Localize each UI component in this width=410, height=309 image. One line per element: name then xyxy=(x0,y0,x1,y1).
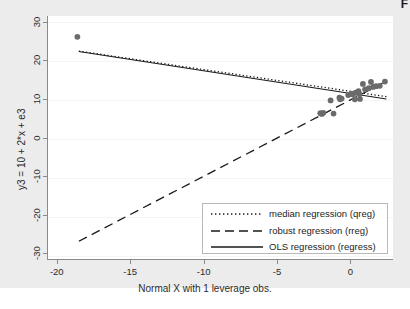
scatter-point xyxy=(382,79,388,85)
scatter-point xyxy=(328,98,334,104)
chart-legend: median regression (qreg) robust regressi… xyxy=(202,203,388,254)
regression-line-solid xyxy=(79,51,387,98)
scatter-point xyxy=(352,96,358,102)
legend-entry-qreg: median regression (qreg) xyxy=(203,205,387,222)
regression-line-dotted xyxy=(79,51,387,97)
y-axis-tick xyxy=(43,253,47,254)
y-tick-label: -30 xyxy=(31,241,42,265)
scatter-point xyxy=(357,96,363,102)
x-axis-tick xyxy=(350,260,351,264)
legend-label: median regression (qreg) xyxy=(269,208,375,219)
x-axis-tick xyxy=(57,260,58,264)
x-axis-tick xyxy=(130,260,131,264)
y-axis-spine xyxy=(47,16,48,260)
scatter-point xyxy=(331,111,337,117)
y-axis-tick xyxy=(43,176,47,177)
x-axis-tick xyxy=(277,260,278,264)
legend-entry-regress: OLS regression (regress) xyxy=(203,238,387,255)
x-tick-label: -5 xyxy=(262,266,292,277)
scatter-point xyxy=(360,81,366,87)
y-axis-tick xyxy=(43,22,47,23)
y-tick-label: 0 xyxy=(31,126,42,150)
x-tick-label: -20 xyxy=(42,266,72,277)
y-axis-tick xyxy=(43,215,47,216)
scatter-point xyxy=(356,91,362,97)
legend-label: OLS regression (regress) xyxy=(269,241,376,252)
dashed-line-key xyxy=(209,224,265,238)
x-axis-title: Normal X with 1 leverage obs. xyxy=(0,283,410,294)
scatter-point xyxy=(74,34,80,40)
dotted-line-key xyxy=(209,207,265,221)
y-axis-title: y3 = 10 + 2*x + e3 xyxy=(16,109,27,190)
chart-canvas xyxy=(0,0,410,309)
x-tick-label: 0 xyxy=(335,266,365,277)
legend-entry-rreg: robust regression (rreg) xyxy=(203,222,387,239)
x-axis-spine xyxy=(47,259,393,260)
figure-container: F 3020100-10-20-30 -20-15-10-50 y3 = 10 … xyxy=(0,0,410,309)
y-tick-label: 30 xyxy=(31,10,42,34)
y-axis-tick xyxy=(43,99,47,100)
y-tick-label: -20 xyxy=(31,203,42,227)
legend-label: robust regression (rreg) xyxy=(269,225,368,236)
x-tick-label: -10 xyxy=(189,266,219,277)
solid-line-key xyxy=(209,240,265,254)
scatter-point xyxy=(320,110,326,116)
scatter-point xyxy=(368,79,374,85)
y-tick-label: 20 xyxy=(31,48,42,72)
scatter-point xyxy=(377,83,383,89)
x-axis-tick xyxy=(204,260,205,264)
y-tick-label: 10 xyxy=(31,87,42,111)
y-axis-tick xyxy=(43,60,47,61)
x-tick-label: -15 xyxy=(115,266,145,277)
y-tick-label: -10 xyxy=(31,164,42,188)
scatter-point xyxy=(339,96,345,102)
y-axis-tick xyxy=(43,138,47,139)
